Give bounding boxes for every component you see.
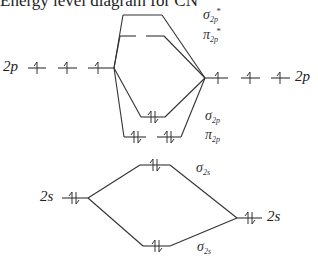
sigma-2s-lower-label: σ2s	[197, 239, 211, 256]
sigma-2p-label: σ2p	[205, 108, 220, 125]
left-2p-label: 2p	[3, 58, 18, 75]
right-2p-label: 2p	[295, 68, 310, 85]
right-2s-label: 2s	[267, 208, 280, 225]
sigma-2p-star-label: σ2p*	[203, 6, 220, 24]
left-2s-label: 2s	[40, 188, 53, 205]
pi-2p-star-label: π2p*	[203, 26, 221, 44]
pi-2p-label: π2p	[205, 127, 220, 144]
sigma-2s-upper-label: σ2s	[196, 160, 210, 177]
